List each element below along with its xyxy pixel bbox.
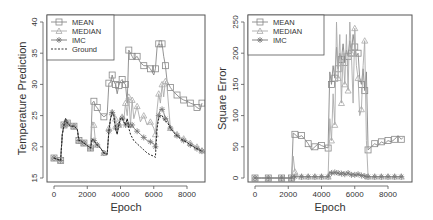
star-marker-icon <box>257 37 263 43</box>
y-tick-label: 50 <box>231 142 240 151</box>
legend-label: MEAN <box>273 18 295 27</box>
star-marker-icon <box>312 174 318 180</box>
legend-label: IMC <box>273 36 287 45</box>
star-marker-icon <box>292 174 298 180</box>
x-tick-label: 6000 <box>346 190 364 199</box>
star-marker-icon <box>385 174 391 180</box>
y-tick-label: 250 <box>231 15 240 29</box>
legend: MEANMEDIANIMC <box>248 15 324 55</box>
star-marker-icon <box>279 175 285 181</box>
figure: 02000400060008000Epoch152025303540Temper… <box>0 0 433 220</box>
square-error-chart: 02000400060008000Epoch050100150200250Squ… <box>0 0 433 220</box>
x-tick-label: 2000 <box>279 190 297 199</box>
star-marker-icon <box>319 174 325 180</box>
series-mean <box>252 35 404 182</box>
y-tick-label: 150 <box>231 77 240 91</box>
y-axis: 050100150200250Square Error <box>216 15 244 180</box>
y-tick-label: 100 <box>231 108 240 122</box>
x-tick-label: 0 <box>253 190 258 199</box>
star-marker-icon <box>392 174 398 180</box>
x-tick-label: 8000 <box>379 190 397 199</box>
y-tick-label: 0 <box>231 175 240 180</box>
x-axis: 02000400060008000Epoch <box>253 186 398 213</box>
x-axis-title: Epoch <box>314 201 345 213</box>
star-marker-icon <box>378 174 384 180</box>
x-tick-label: 4000 <box>313 190 331 199</box>
y-axis-title: Square Error <box>216 67 228 130</box>
y-tick-label: 200 <box>231 46 240 60</box>
star-marker-icon <box>252 175 258 181</box>
legend-label: MEDIAN <box>273 27 302 36</box>
